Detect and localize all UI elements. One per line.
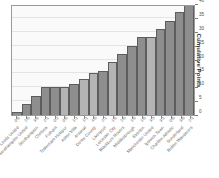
bar bbox=[137, 37, 147, 115]
y-axis-tick-label: 40 bbox=[199, 0, 204, 3]
bar bbox=[22, 104, 32, 115]
bar bbox=[69, 84, 79, 115]
x-axis-tick-value: 2-1 bbox=[188, 116, 195, 123]
bar bbox=[146, 37, 156, 115]
bar-series bbox=[12, 6, 194, 115]
x-axis-label-slot: Bolton Wanderers bbox=[185, 125, 195, 177]
bar bbox=[108, 62, 118, 115]
bar bbox=[127, 46, 137, 115]
x-axis-category-labels: Leeds UnitedSouthampton UnitedSouthampto… bbox=[11, 125, 195, 177]
bar bbox=[117, 54, 127, 115]
bar bbox=[165, 21, 175, 115]
bar bbox=[31, 96, 41, 115]
cumulative-points-bar-chart: 0510152025303540 Cumulative Points 0-02-… bbox=[0, 0, 219, 178]
bar bbox=[175, 12, 185, 115]
bar bbox=[50, 87, 60, 115]
bar bbox=[79, 79, 89, 115]
y-axis-title: Cumulative Points bbox=[193, 5, 205, 116]
bar bbox=[98, 71, 108, 115]
bar bbox=[156, 29, 166, 115]
bar bbox=[89, 73, 99, 115]
bar bbox=[41, 87, 51, 115]
bar bbox=[60, 87, 70, 115]
plot-area bbox=[11, 5, 195, 116]
